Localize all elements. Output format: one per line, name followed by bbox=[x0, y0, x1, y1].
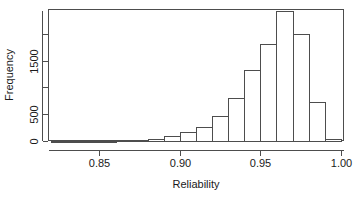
y-axis-tick-label: 0 bbox=[28, 138, 40, 144]
y-axis-title: Frequency bbox=[3, 49, 15, 101]
x-axis-tick-label: 0.95 bbox=[250, 157, 271, 169]
histogram-bar bbox=[149, 140, 165, 142]
histogram-bar bbox=[165, 137, 181, 142]
histogram-bar bbox=[117, 141, 133, 142]
histogram-bar bbox=[277, 12, 294, 142]
histogram-bar bbox=[52, 142, 68, 143]
histogram-bar bbox=[245, 71, 261, 142]
histogram-bar bbox=[181, 133, 197, 142]
x-axis-title: Reliability bbox=[172, 178, 220, 190]
y-axis: 05001500 bbox=[28, 11, 48, 145]
histogram-bar bbox=[294, 35, 310, 142]
x-axis-tick-label: 1.00 bbox=[331, 157, 352, 169]
histogram-bar bbox=[133, 141, 149, 142]
histogram-bar bbox=[310, 103, 326, 142]
histogram-bars bbox=[52, 12, 342, 143]
y-axis-tick-label: 1500 bbox=[28, 49, 40, 73]
x-axis-tick-label: 0.85 bbox=[89, 157, 110, 169]
histogram-bar bbox=[68, 142, 84, 143]
histogram-bar bbox=[100, 142, 117, 143]
y-axis-tick-label: 500 bbox=[28, 105, 40, 123]
x-axis: 0.850.900.951.00 bbox=[49, 151, 353, 170]
histogram-bar bbox=[326, 140, 342, 142]
histogram-bar bbox=[229, 99, 245, 142]
histogram-bar bbox=[84, 142, 100, 143]
histogram-bar bbox=[261, 45, 277, 142]
chart-canvas: 05001500 0.850.900.951.00 Frequency Reli… bbox=[0, 0, 356, 200]
x-axis-tick-label: 0.90 bbox=[170, 157, 191, 169]
histogram-bar bbox=[197, 128, 213, 142]
histogram-bar bbox=[213, 117, 229, 142]
histogram-figure: 05001500 0.850.900.951.00 Frequency Reli… bbox=[0, 0, 356, 200]
